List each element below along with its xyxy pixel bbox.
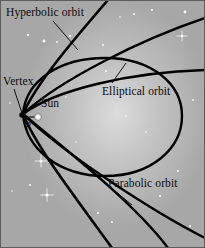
orbit-diagram-figure: Hyperbolic orbit Vertex Sun p Elliptical… [0, 0, 205, 248]
label-sun: Sun [41, 97, 59, 109]
label-parabolic-orbit: Parabolic orbit [108, 177, 178, 189]
label-elliptical-orbit: Elliptical orbit [102, 85, 170, 97]
sun-marker [35, 114, 42, 121]
label-vertex: Vertex [3, 75, 34, 87]
label-hyperbolic-orbit: Hyperbolic orbit [6, 6, 84, 18]
label-perihelion-distance: p [26, 118, 31, 130]
vertex-point-marker [19, 112, 24, 117]
leader-line-hyperbolic [53, 21, 78, 50]
leader-line-vertex [14, 89, 22, 113]
curve-parabolic-orbit [23, 18, 205, 238]
